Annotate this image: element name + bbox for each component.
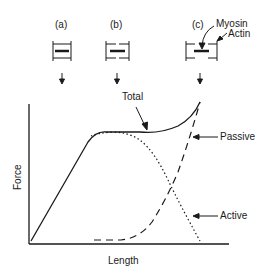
down-arrow-c-icon bbox=[198, 73, 203, 84]
sarcomere-b-label: (b) bbox=[110, 20, 122, 30]
sarcomere-c-label: (c) bbox=[192, 20, 204, 30]
sarcomere-b-icon bbox=[106, 41, 129, 61]
down-arrow-b-icon bbox=[115, 73, 120, 84]
actin-pointer-arrow-icon bbox=[217, 33, 227, 41]
passive-label: Passive bbox=[220, 132, 255, 142]
chart-axes bbox=[29, 104, 229, 244]
total-pointer-arrow-icon bbox=[136, 107, 148, 130]
active-curve bbox=[91, 132, 200, 241]
sarcomere-a-icon bbox=[53, 41, 71, 61]
actin-label: Actin bbox=[228, 29, 250, 39]
y-axis-label: Force bbox=[12, 164, 23, 190]
active-pointer-arrow-icon bbox=[193, 214, 218, 219]
down-arrow-a-icon bbox=[60, 73, 65, 84]
active-label: Active bbox=[220, 211, 247, 221]
total-label: Total bbox=[122, 92, 143, 102]
x-axis-label: Length bbox=[108, 256, 139, 266]
passive-pointer-arrow-icon bbox=[193, 135, 218, 140]
sarcomere-a-label: (a) bbox=[55, 20, 67, 30]
total-curve bbox=[31, 102, 200, 241]
